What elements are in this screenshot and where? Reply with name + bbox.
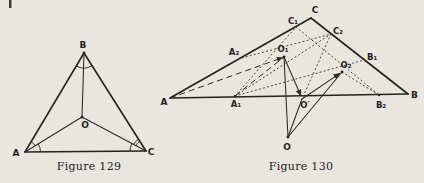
- segment-O1-Oprime: [284, 57, 301, 96]
- figure-129: A B C O Figure 129: [13, 40, 155, 173]
- figure-130: A B C C₁ C₂ A₂ A₁ B₁ B₂ O₁ O₂ O′ O Figur…: [161, 5, 418, 173]
- segment-CO: [82, 117, 146, 151]
- point-label-B2: B₂: [376, 100, 386, 110]
- dotted-A1-C1: [235, 27, 296, 96]
- segment-O1-O: [284, 57, 288, 137]
- angle-arc-at-A-inner: [31, 142, 35, 146]
- vertex-label-B: B: [411, 90, 418, 100]
- point-B2: [378, 94, 380, 96]
- side-BC: [84, 53, 146, 151]
- segment-BO: [82, 53, 84, 117]
- side-CA: [25, 151, 146, 152]
- dashed-A1-O1: [235, 57, 284, 96]
- vertex-label-A: A: [13, 148, 20, 158]
- point-label-O2: O₂: [341, 60, 352, 70]
- angle-arc-at-A-outer: [38, 144, 40, 152]
- angle-arc-at-C-upper-1: [136, 141, 140, 145]
- point-label-B1: B₁: [367, 52, 377, 62]
- point-O2: [341, 71, 344, 74]
- vertex-label-C: C: [148, 147, 155, 157]
- angle-arc-at-C-upper-2: [134, 139, 139, 144]
- side-AC: [170, 18, 311, 98]
- point-label-O: O: [283, 142, 291, 152]
- point-label-O1: O₁: [278, 44, 289, 54]
- book-page: A B C O Figure 129 A: [0, 0, 424, 183]
- vertex-label-B: B: [80, 40, 87, 50]
- side-AB: [170, 94, 408, 98]
- point-label-C1: C₁: [288, 16, 298, 26]
- figure-129-caption: Figure 129: [57, 160, 122, 173]
- angle-arc-at-C-lower: [130, 144, 132, 152]
- point-B: [83, 52, 86, 55]
- segment-AO: [25, 117, 82, 152]
- dashed-A-O1: [170, 58, 283, 98]
- point-A1: [234, 95, 236, 97]
- side-AB: [25, 53, 84, 152]
- figure-130-caption: Figure 130: [269, 160, 334, 173]
- point-label-Oprime: O′: [300, 100, 310, 110]
- point-label-O: O: [81, 120, 89, 130]
- point-label-A1: A₁: [231, 99, 242, 109]
- point-O: [287, 136, 290, 139]
- point-O: [81, 116, 84, 119]
- vertex-label-A: A: [161, 97, 168, 107]
- angle-arc-at-B: [76, 66, 92, 68]
- point-label-C2: C₂: [333, 26, 343, 36]
- point-label-A2: A₂: [229, 47, 240, 57]
- vertex-label-C: C: [312, 5, 319, 15]
- point-O1: [283, 56, 286, 59]
- dotted-O2-B2: [342, 72, 379, 95]
- geometry-figures-canvas: A B C O Figure 129 A: [0, 0, 424, 183]
- segment-O2-O: [288, 72, 342, 137]
- page-edge-mark: [9, 0, 11, 8]
